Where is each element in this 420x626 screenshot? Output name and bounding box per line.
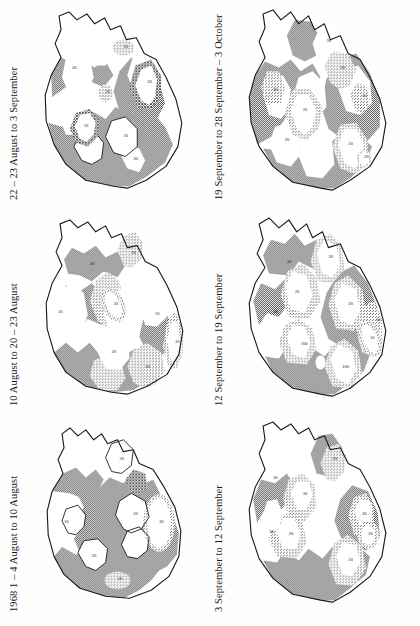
contour-label: 10: [269, 529, 274, 534]
contour-label: 10: [117, 576, 122, 581]
panel-2-map: 10 20 30 10 20 10 20 30: [21, 214, 209, 412]
contour-label: 10: [370, 335, 375, 340]
panel-6-map: 20 30 10 20 20 10 30 20: [226, 8, 414, 206]
contour-label: 20: [147, 79, 152, 84]
contour-label: 30: [273, 309, 278, 314]
panel-4-label: 3 September to 12 September: [213, 485, 224, 612]
contour-label: 20: [285, 137, 290, 142]
contour-label: 30: [90, 261, 95, 266]
contour-label: 10: [123, 133, 128, 138]
contour-label: 20: [289, 531, 294, 536]
contour-label: 10: [376, 317, 381, 322]
contour-label: 10: [155, 311, 160, 316]
contour-label: 20: [362, 511, 367, 516]
panel-1-map: 10 20 20 30 10 20: [21, 420, 209, 618]
isopleth-map-3: 10 20 10 20 30 10 20: [21, 8, 209, 206]
panel-2-label: 10 August to 20 – 23 August: [8, 283, 19, 406]
contour-label: 30: [326, 38, 331, 43]
contour-label: 30: [287, 260, 292, 265]
contour-label: 20: [92, 553, 97, 558]
contour-label: 10: [362, 93, 367, 98]
contour-label: 10: [84, 123, 89, 128]
map-1-body: 10 20 20 30 10 20: [47, 428, 181, 598]
map-panel-3: 22 – 23 August to 3 September: [6, 4, 211, 210]
contour-label: 10: [368, 531, 373, 536]
contour-label: 20: [145, 364, 150, 369]
contour-label: 100: [342, 364, 350, 369]
contour-label: 20: [112, 349, 117, 354]
contour-label: 20: [119, 456, 124, 461]
contour-label: 30: [273, 87, 278, 92]
map-panel-6: 19 September to 28 September – 3 October: [211, 4, 416, 210]
contour-label: 20: [72, 65, 77, 70]
contour-label: 30: [273, 475, 278, 480]
contour-label: 20: [340, 65, 345, 70]
panel-grid: 1968 1 – 4 August to 10 August: [0, 0, 420, 626]
isopleth-map-5: 100 20 30 100 20 10 20 30 10: [226, 214, 414, 412]
panel-3-label: 22 – 23 August to 3 September: [8, 67, 19, 200]
contour-label: 10: [348, 141, 353, 146]
map-panel-4: 3 September to 12 September: [211, 416, 416, 622]
figure-page: 1968 1 – 4 August to 10 August: [0, 0, 420, 626]
panel-3-map: 10 20 10 20 30 10 20: [21, 8, 209, 206]
contour-label: 10: [64, 519, 69, 524]
map-panel-1: 1968 1 – 4 August to 10 August: [6, 416, 211, 622]
contour-label: 20: [106, 89, 111, 94]
isopleth-map-6: 20 30 10 20 20 10 30 20: [226, 8, 414, 206]
contour-label: 20: [348, 301, 353, 306]
map-6-body: 20 30 10 20 20 10 30 20: [249, 10, 386, 190]
map-3-body: 10 20 10 20 30 10 20: [45, 12, 182, 188]
contour-label: 20: [295, 289, 300, 294]
contour-label: 20: [133, 511, 138, 516]
panel-5-map: 100 20 30 100 20 10 20 30 10: [226, 214, 414, 412]
contour-label: 30: [303, 491, 308, 496]
contour-label: 20: [303, 107, 308, 112]
contour-label: 100: [301, 341, 309, 346]
contour-label: 10: [348, 557, 353, 562]
panel-1-label: 1968 1 – 4 August to 10 August: [8, 476, 19, 612]
contour-label: 20: [328, 254, 333, 259]
isopleth-map-4: 10 20 30 10 20 10 20 30: [226, 420, 414, 618]
map-4-body: 10 20 30 10 20 10 20 30: [249, 422, 386, 602]
contour-label: 30: [159, 519, 164, 524]
map-panel-2: 10 August to 20 – 23 August: [6, 210, 211, 416]
map-2-body: 10 20 30 10 20 10 20 30: [46, 220, 183, 394]
contour-label: 20: [332, 456, 337, 461]
isopleth-map-1: 10 20 20 30 10 20: [21, 420, 209, 618]
map-5-body: 100 20 30 100 20 10 20 30 10: [249, 218, 386, 396]
contour-label: 10: [58, 309, 63, 314]
panel-5-label: 12 September to 19 September: [213, 274, 224, 406]
contour-label: 10: [123, 44, 128, 49]
panel-4-map: 10 20 30 10 20 10 20 30: [226, 420, 414, 618]
contour-label: 10: [175, 339, 180, 344]
panel-6-label: 19 September to 28 September – 3 October: [213, 14, 224, 200]
contour-label: 30: [114, 301, 119, 306]
contour-label: 20: [364, 154, 369, 159]
isopleth-map-2: 10 20 30 10 20 10 20 30: [21, 214, 209, 412]
contour-label: 20: [131, 250, 136, 255]
contour-label: 30: [133, 156, 138, 161]
map-panel-5: 12 September to 19 September: [211, 210, 416, 416]
